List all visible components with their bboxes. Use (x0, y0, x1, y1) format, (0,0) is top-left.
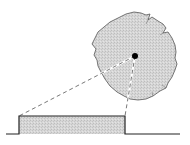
diagram-svg (0, 0, 190, 145)
pulse-fill (19, 116, 125, 134)
diagram-canvas (0, 0, 190, 145)
center-point-dot (132, 53, 138, 59)
